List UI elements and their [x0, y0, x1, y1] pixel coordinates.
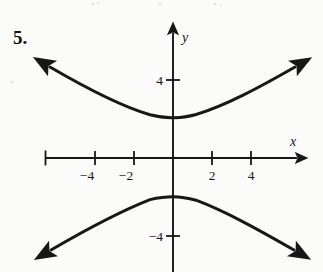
hyperbola-graph: y x −4 −2 2 4 4 −4: [0, 0, 323, 272]
x-tick-label-2: 2: [209, 168, 216, 183]
y-axis-label: y: [180, 30, 189, 45]
figure-page: 5.: [0, 0, 323, 272]
y-tick-label-4: 4: [156, 73, 163, 88]
y-tick-label--4: −4: [149, 229, 164, 244]
x-axis-label: x: [289, 134, 297, 149]
x-tick-label--2: −2: [119, 168, 133, 183]
x-axis: [45, 151, 297, 166]
y-axis: [166, 33, 180, 272]
x-tick-label-4: 4: [248, 168, 255, 183]
x-tick-label--4: −4: [80, 168, 95, 183]
